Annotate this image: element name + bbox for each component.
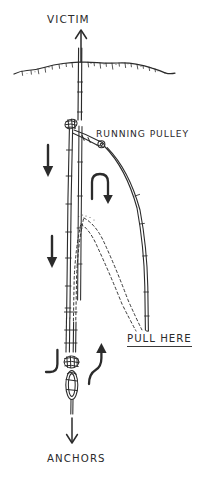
diagram-canvas bbox=[0, 0, 206, 483]
dashed-rope-path bbox=[81, 218, 142, 331]
dashed-rope-inner-leg bbox=[73, 219, 83, 322]
load-arrow-down-lower-head bbox=[47, 257, 57, 268]
lower-anchor-rope bbox=[66, 318, 76, 352]
running-pulley-icon bbox=[64, 118, 79, 131]
u-turn-arrow-head bbox=[103, 195, 113, 204]
label-anchors: ANCHORS bbox=[47, 454, 106, 464]
inner-static-strand bbox=[78, 126, 82, 300]
haul-arrow-up-icon bbox=[89, 350, 101, 384]
anchors-arrow-down-icon bbox=[67, 418, 78, 443]
anchor-side-rope bbox=[67, 129, 73, 318]
anchor-hook-arrow-left-icon bbox=[46, 350, 57, 372]
victim-arrow-up-icon bbox=[76, 30, 87, 62]
carabiner-icon bbox=[66, 371, 78, 400]
label-running-pulley: RUNNING PULLEY bbox=[96, 129, 189, 138]
anchor-tail-rope bbox=[71, 399, 73, 414]
label-victim: VICTIM bbox=[47, 14, 90, 25]
victim-load-rope bbox=[78, 48, 82, 120]
crevasse-rescue-diagram: VICTIM RUNNING PULLEY PULL HERE ANCHORS bbox=[0, 0, 206, 483]
load-arrow-down-upper-head bbox=[43, 166, 53, 177]
haul-strand-ticks bbox=[135, 194, 149, 316]
anchor-prusik-knot-icon bbox=[64, 356, 79, 368]
haul-arrow-up-head bbox=[96, 343, 106, 353]
label-pull-here: PULL HERE bbox=[127, 334, 192, 347]
haul-strand-rope bbox=[104, 146, 148, 331]
